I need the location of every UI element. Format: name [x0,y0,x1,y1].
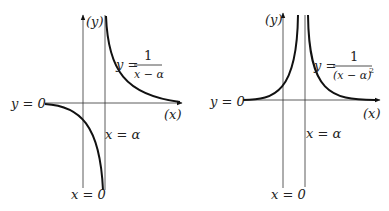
right-curve-left [243,15,298,100]
left-curve-lower [45,104,103,190]
svg-text:(x − α): (x − α) [333,69,371,82]
right-vertical-asymptote-label: x = α [306,126,341,141]
right-y-label: (y) [265,12,283,27]
left-x-label: (x) [164,107,181,122]
right-graph: (y) (x) y = 0 x = α x = 0 y = 1 (x − α) … [209,12,380,202]
right-x-label: (x) [363,106,380,121]
left-vertical-asymptote-label: x = α [105,127,140,142]
svg-text:1: 1 [350,49,358,64]
right-equation: y = 1 (x − α) 2 [313,49,374,82]
hyperbola-diagrams: (y) (x) y = 0 x = α x = 0 y = 1 x − α (y… [0,0,389,211]
right-y-axis-line-label: x = 0 [271,187,306,202]
svg-text:1: 1 [144,48,152,63]
right-horizontal-asymptote-label: y = 0 [209,94,245,109]
left-horizontal-asymptote-label: y = 0 [10,96,46,111]
left-y-label: (y) [86,14,104,29]
svg-text:x − α: x − α [134,68,164,81]
svg-text:2: 2 [369,66,374,75]
left-graph: (y) (x) y = 0 x = α x = 0 y = 1 x − α [10,14,182,202]
left-y-axis-line-label: x = 0 [71,187,106,202]
